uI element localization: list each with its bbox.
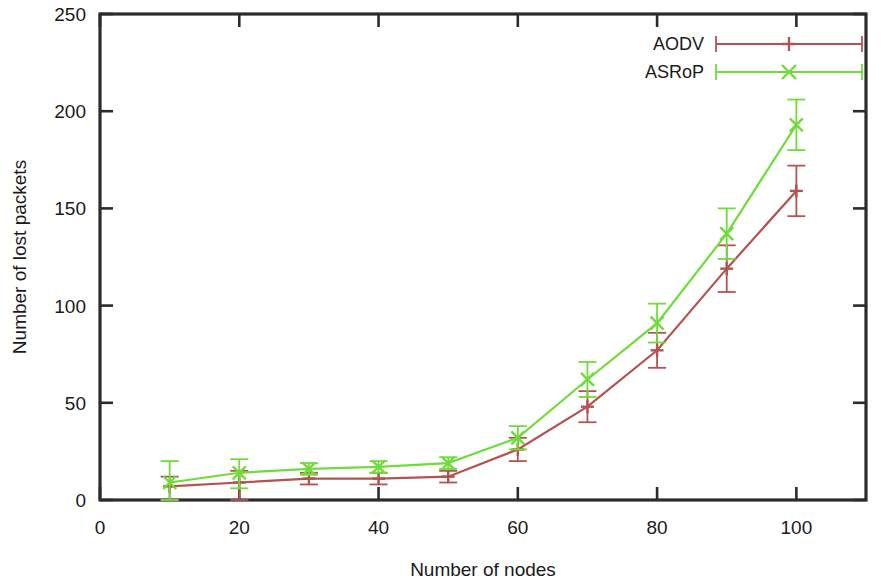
data-point-marker (442, 470, 455, 483)
series-asrop (161, 100, 806, 500)
y-axis-tick-label: 150 (54, 198, 86, 219)
y-axis-tick-label: 250 (54, 4, 86, 25)
legend-label-asrop: ASRoP (645, 62, 704, 82)
chart-figure: 050100150200250020406080100Number of nod… (0, 0, 886, 584)
y-axis-tick-label: 100 (54, 296, 86, 317)
x-axis-tick-label: 60 (507, 517, 528, 538)
x-axis-tick-label: 100 (781, 517, 813, 538)
x-axis-tick-label: 40 (368, 517, 389, 538)
plot-frame (100, 14, 866, 500)
legend-sample-asrop (716, 64, 862, 80)
legend-marker (782, 37, 796, 51)
data-point-marker (372, 472, 385, 485)
y-axis-title: Number of lost packets (9, 160, 30, 354)
legend-label-aodv: AODV (653, 34, 704, 54)
y-axis-tick-label: 50 (65, 393, 86, 414)
x-axis-tick-label: 0 (95, 517, 106, 538)
series-line (170, 191, 797, 486)
x-axis-tick-label: 20 (229, 517, 250, 538)
line-chart-canvas: 050100150200250020406080100Number of nod… (0, 0, 886, 584)
x-axis-title: Number of nodes (410, 559, 556, 580)
x-axis-tick-label: 80 (647, 517, 668, 538)
y-axis-tick-label: 0 (75, 490, 86, 511)
series-line (170, 125, 797, 483)
y-axis-tick-label: 200 (54, 101, 86, 122)
legend-sample-aodv (716, 36, 862, 52)
